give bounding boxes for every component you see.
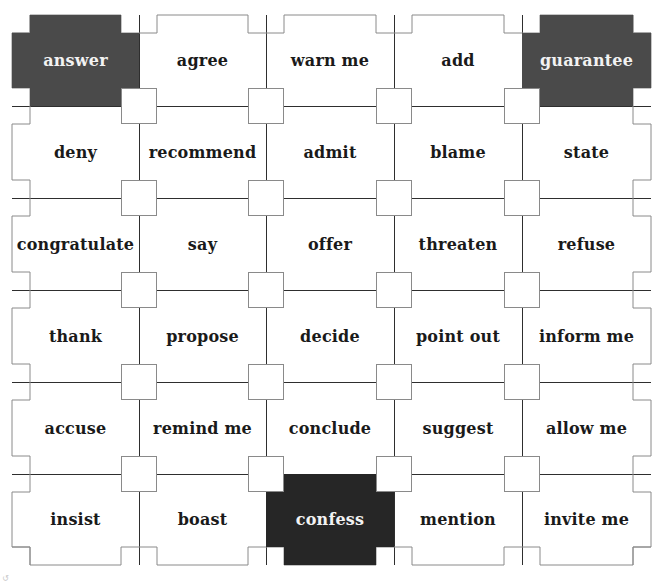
cell-label: threaten — [419, 235, 498, 254]
grid-cell[interactable]: recommend — [139, 106, 266, 198]
cell-label: inform me — [539, 327, 634, 346]
intersection-square — [248, 364, 284, 400]
grid-cell[interactable]: boast — [139, 474, 266, 565]
cell-label: decide — [300, 327, 360, 346]
intersection-square — [121, 272, 157, 308]
intersection-square — [248, 180, 284, 216]
cell-label: admit — [304, 143, 357, 162]
corner-mark: ↺ — [2, 574, 9, 581]
grid-cell[interactable]: guarantee — [522, 15, 651, 106]
grid-cell[interactable]: admit — [266, 106, 394, 198]
grid-line — [12, 290, 651, 291]
grid-cell[interactable]: add — [394, 15, 522, 106]
grid-cell[interactable]: propose — [139, 290, 266, 382]
intersection-square — [121, 456, 157, 492]
cell-label: blame — [430, 143, 486, 162]
intersection-square — [376, 180, 412, 216]
intersection-square — [504, 180, 540, 216]
cell-label: recommend — [149, 143, 257, 162]
cell-label: congratulate — [17, 235, 134, 254]
grid-line — [12, 106, 651, 107]
grid-cell[interactable]: state — [522, 106, 651, 198]
cell-label: deny — [54, 143, 97, 162]
grid-cell[interactable]: insist — [12, 474, 139, 565]
cell-label: invite me — [544, 510, 629, 529]
grid-cell[interactable]: offer — [266, 198, 394, 290]
cell-label: suggest — [423, 419, 494, 438]
cell-label: guarantee — [540, 51, 633, 70]
cell-label: allow me — [546, 419, 627, 438]
intersection-square — [121, 364, 157, 400]
grid-cell[interactable]: decide — [266, 290, 394, 382]
grid-cell[interactable]: invite me — [522, 474, 651, 565]
grid-line — [12, 198, 651, 199]
grid-cell[interactable]: confess — [266, 474, 394, 565]
grid-cell[interactable]: thank — [12, 290, 139, 382]
cell-label: agree — [177, 51, 228, 70]
grid-cell[interactable]: remind me — [139, 382, 266, 474]
game-board: answeragreewarn meaddguaranteedenyrecomm… — [0, 0, 661, 581]
cell-label: propose — [166, 327, 239, 346]
cell-label: add — [441, 51, 474, 70]
grid-cell[interactable]: warn me — [266, 15, 394, 106]
cell-label: thank — [49, 327, 102, 346]
intersection-square — [504, 272, 540, 308]
intersection-square — [121, 180, 157, 216]
grid-cell[interactable]: mention — [394, 474, 522, 565]
grid-cell[interactable]: congratulate — [12, 198, 139, 290]
grid-cell[interactable]: allow me — [522, 382, 651, 474]
intersection-square — [248, 272, 284, 308]
grid-cell[interactable]: conclude — [266, 382, 394, 474]
cell-label: answer — [43, 51, 108, 70]
cell-label: say — [188, 235, 217, 254]
intersection-square — [248, 88, 284, 124]
grid-cell[interactable]: answer — [12, 15, 139, 106]
cell-label: refuse — [558, 235, 616, 254]
cell-label: insist — [50, 510, 100, 529]
grid-cell[interactable]: threaten — [394, 198, 522, 290]
cell-label: conclude — [289, 419, 371, 438]
grid-line — [12, 382, 651, 383]
grid-cell[interactable]: deny — [12, 106, 139, 198]
grid-cell[interactable]: agree — [139, 15, 266, 106]
cell-label: confess — [296, 510, 365, 529]
grid-cell[interactable]: refuse — [522, 198, 651, 290]
intersection-square — [376, 272, 412, 308]
intersection-square — [504, 456, 540, 492]
intersection-square — [376, 88, 412, 124]
grid-cell[interactable]: blame — [394, 106, 522, 198]
grid-cell[interactable]: suggest — [394, 382, 522, 474]
cell-label: remind me — [153, 419, 252, 438]
grid-cell[interactable]: inform me — [522, 290, 651, 382]
intersection-square — [376, 364, 412, 400]
cell-label: mention — [420, 510, 496, 529]
cell-label: boast — [178, 510, 228, 529]
cell-label: accuse — [45, 419, 107, 438]
cell-label: state — [564, 143, 609, 162]
intersection-square — [504, 364, 540, 400]
cell-label: offer — [308, 235, 352, 254]
cell-label: warn me — [291, 51, 369, 70]
cell-label: point out — [416, 327, 500, 346]
grid-cell[interactable]: accuse — [12, 382, 139, 474]
grid-cell[interactable]: point out — [394, 290, 522, 382]
grid-cell[interactable]: say — [139, 198, 266, 290]
